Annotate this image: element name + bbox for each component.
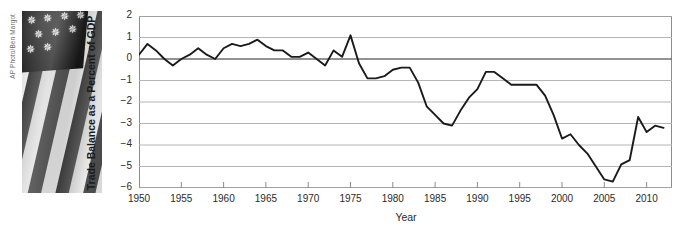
y-tick-label: −2: [106, 95, 132, 106]
y-axis-title: Trade Balance as a Percent of GDP: [84, 0, 98, 14]
x-tick-label: 2000: [542, 193, 582, 204]
x-tick-label: 1975: [331, 193, 371, 204]
x-tick-label: 2005: [584, 193, 624, 204]
y-tick-label: 0: [106, 52, 132, 63]
x-axis-tick-marks: [139, 182, 647, 188]
x-axis-title: Year: [140, 211, 672, 223]
y-tick-label: −4: [106, 138, 132, 149]
y-axis-title-label: Trade Balance as a Percent of GDP: [84, 14, 98, 192]
x-tick-label: 1990: [457, 193, 497, 204]
y-tick-label: −5: [106, 160, 132, 171]
y-tick-label: −6: [106, 181, 132, 192]
y-tick-label: −3: [106, 117, 132, 128]
x-tick-label: 1980: [373, 193, 413, 204]
trade-balance-line: [139, 35, 664, 181]
y-tick-label: 2: [106, 9, 132, 20]
plot-svg: [139, 16, 672, 188]
x-tick-label: 1995: [500, 193, 540, 204]
x-tick-label: 1965: [246, 193, 286, 204]
y-tick-label: 1: [106, 31, 132, 42]
x-tick-label: 1955: [161, 193, 201, 204]
x-tick-label: 2010: [627, 193, 667, 204]
x-tick-label: 1950: [119, 193, 159, 204]
trade-balance-chart: Trade Balance as a Percent of GDP 210−1−…: [0, 0, 691, 233]
x-tick-label: 1970: [288, 193, 328, 204]
x-tick-label: 1985: [415, 193, 455, 204]
x-tick-label: 1960: [204, 193, 244, 204]
y-tick-label: −1: [106, 74, 132, 85]
figure-container: ✵ ✵ ✵ ✵ ✵ ✵ ✵ ✵ ✵ AP Photo/Ben Margot Tr…: [0, 0, 691, 233]
